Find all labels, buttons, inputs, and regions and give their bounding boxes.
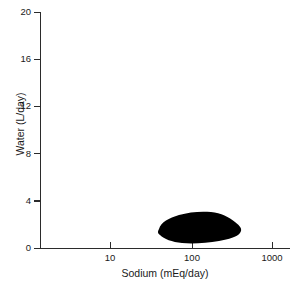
y-axis-title: Water (L/day) [14, 59, 26, 189]
y-tick-label-0: 0 [0, 243, 31, 253]
x-tick-label-10: 10 [87, 253, 133, 263]
chart-figure: 20 16 12 8 4 0 10 100 1000 Water (L/day)… [0, 0, 301, 290]
x-tick-label-100: 100 [169, 253, 215, 263]
x-axis-title: Sodium (mEq/day) [40, 267, 290, 279]
plot-area [40, 12, 290, 248]
data-series-normal-intake-region [155, 209, 245, 247]
x-tick-label-1000: 1000 [249, 253, 295, 263]
y-tick-label-20: 20 [0, 7, 31, 17]
y-tick-label-4: 4 [0, 196, 31, 206]
